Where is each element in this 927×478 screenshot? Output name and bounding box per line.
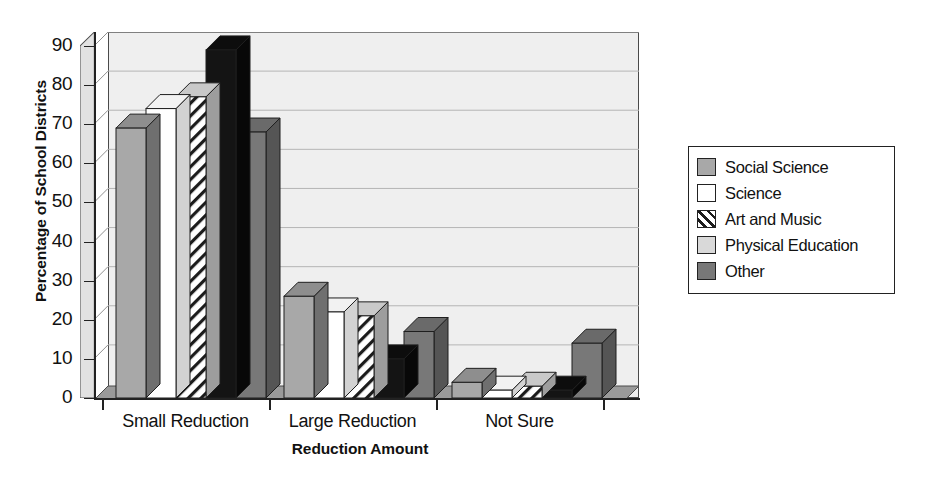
- legend-label-art-and-music: Art and Music: [725, 210, 821, 229]
- y-axis-tick: [84, 46, 94, 47]
- y-axis-tick-label: 30: [8, 269, 72, 291]
- x-axis-tick: [102, 399, 104, 410]
- legend-swatch-physical-education: [697, 236, 716, 254]
- y-axis-tick-label: 0: [8, 386, 72, 408]
- bar-large-reduction-social-science: [284, 282, 328, 398]
- x-axis-category-label: Small Reduction: [102, 411, 269, 432]
- bar-side-face: [314, 282, 328, 398]
- y-axis-tick: [84, 281, 94, 282]
- bar-side-face: [236, 36, 250, 398]
- y-axis-tick: [84, 359, 94, 360]
- legend-item-science: Science: [697, 180, 886, 206]
- y-axis-line: [94, 32, 96, 400]
- bar-side-face: [146, 114, 160, 398]
- y-axis-tick-label: 90: [8, 34, 72, 56]
- y-axis-tick-label: 10: [8, 347, 72, 369]
- bar-front-face: [452, 382, 482, 398]
- x-axis-title: Reduction Amount: [95, 440, 625, 458]
- y-axis-tick: [84, 124, 94, 125]
- bar-front-face: [284, 296, 314, 398]
- legend-item-other: Other: [697, 258, 886, 284]
- y-axis-tick-label: 60: [8, 151, 72, 173]
- bar-side-face: [266, 118, 280, 398]
- bar-group-layer: [94, 32, 639, 398]
- legend-label-physical-education: Physical Education: [725, 236, 858, 255]
- legend-swatch-art-and-music: [697, 210, 716, 228]
- legend-swatch-social-science: [697, 158, 716, 176]
- plot-area: [94, 32, 639, 400]
- chart-legend: Social Science Science Art and Music Phy…: [688, 146, 895, 294]
- legend-swatch-science: [697, 184, 716, 202]
- y-axis-tick-label: 80: [8, 73, 72, 95]
- bar-small-reduction-social-science: [116, 114, 160, 398]
- bar-side-face: [206, 83, 220, 398]
- y-axis-tick: [84, 163, 94, 164]
- y-axis-tick: [84, 242, 94, 243]
- y-axis-tick: [84, 202, 94, 203]
- legend-item-physical-education: Physical Education: [697, 232, 886, 258]
- y-axis-tick-label: 50: [8, 190, 72, 212]
- legend-item-art-and-music: Art and Music: [697, 206, 886, 232]
- bar-side-face: [374, 302, 388, 398]
- legend-label-other: Other: [725, 262, 765, 281]
- legend-swatch-other: [697, 262, 716, 280]
- x-axis-category-label: Not Sure: [436, 411, 603, 432]
- x-axis-category-label: Large Reduction: [269, 411, 436, 432]
- chart-figure: Percentage of School Districts Reduction…: [0, 0, 927, 478]
- y-axis-tick-label: 20: [8, 308, 72, 330]
- legend-label-social-science: Social Science: [725, 158, 828, 177]
- y-axis-tick: [84, 398, 94, 399]
- bar-side-face: [176, 95, 190, 398]
- y-axis-tick-label: 70: [8, 112, 72, 134]
- bar-side-face: [344, 298, 358, 398]
- legend-item-social-science: Social Science: [697, 154, 886, 180]
- bar-front-face: [116, 128, 146, 398]
- legend-label-science: Science: [725, 184, 781, 203]
- x-axis-tick: [436, 399, 438, 410]
- x-axis-line: [94, 398, 640, 400]
- y-axis-tick: [84, 320, 94, 321]
- x-axis-tick: [269, 399, 271, 410]
- y-axis-tick: [84, 85, 94, 86]
- x-axis-tick: [603, 399, 605, 410]
- y-axis-tick-label: 40: [8, 230, 72, 252]
